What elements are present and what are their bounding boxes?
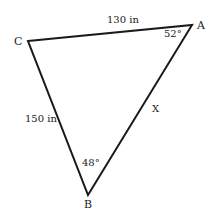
vertex-label-b: B xyxy=(84,198,92,211)
side-label-ab: X xyxy=(152,103,160,114)
side-label-ca: 130 in xyxy=(107,14,139,25)
vertex-label-c: C xyxy=(14,35,22,48)
angle-label-a: 52° xyxy=(164,28,182,39)
triangle-abc xyxy=(28,25,192,195)
vertex-label-a: A xyxy=(196,19,206,32)
angle-label-b: 48° xyxy=(82,157,100,168)
side-label-cb: 150 in xyxy=(25,113,57,124)
triangle-diagram: C A B 130 in 150 in X 52° 48° xyxy=(0,0,215,222)
